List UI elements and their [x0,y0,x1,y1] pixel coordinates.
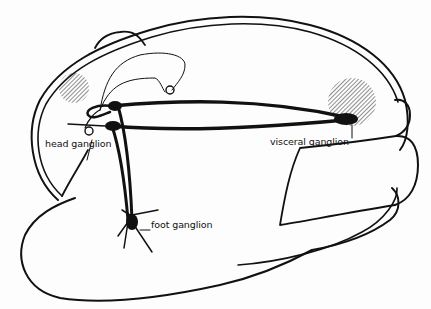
body-outline [312,188,399,250]
mouth-ring [85,127,93,135]
nerve-cord-upper [112,102,345,117]
head-ganglion-label: head ganglion [45,138,111,149]
head-gonad-patch [59,73,89,103]
anus-ring [166,86,174,94]
foot-ganglion [126,214,138,230]
diagram-drawing [0,0,431,309]
left-body-line [62,150,88,196]
clam-nervous-system-diagram: head ganglion visceral ganglion foot gan… [0,0,431,309]
body-lower-line [238,188,397,265]
siphon-lower [395,136,418,205]
foot-outline [21,198,312,301]
mantle-inner-right [280,136,396,225]
visceral-ganglion [334,113,358,125]
visceral-ganglion-label: visceral ganglion [270,136,349,147]
nerve-cord-lower [112,120,345,129]
head-ganglion-upper [108,101,122,111]
foot-ganglion-label: foot ganglion [151,219,212,230]
head-ganglion-lower [105,121,121,131]
